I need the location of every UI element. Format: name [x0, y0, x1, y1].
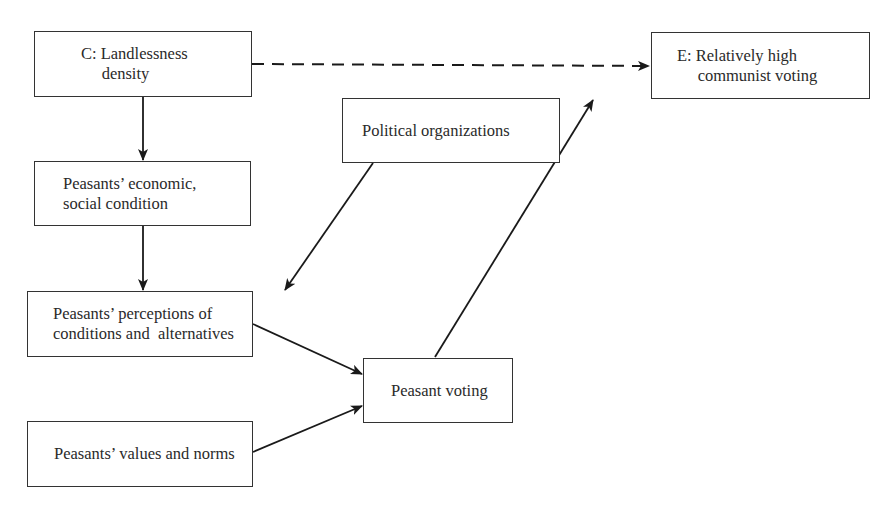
node-peasant-voting: Peasant voting: [363, 358, 513, 423]
node-label: Peasants’ economic, social condition: [63, 174, 196, 214]
node-economic-social-condition: Peasants’ economic, social condition: [34, 161, 251, 226]
node-label: Peasants’ values and norms: [54, 444, 235, 464]
node-communist-voting: E: Relatively high communist voting: [651, 32, 870, 99]
edge-perceptions-to-voting: [253, 324, 362, 374]
node-political-organizations: Political organizations: [342, 98, 560, 163]
node-label: Peasants’ perceptions of conditions and …: [53, 304, 234, 344]
node-values-norms: Peasants’ values and norms: [27, 421, 253, 487]
edge-values-to-voting: [253, 406, 362, 452]
edge-political-to-perceptions: [285, 163, 373, 290]
node-label: Political organizations: [362, 121, 510, 141]
node-landlessness-density: C: Landlessness density: [34, 31, 252, 97]
node-label: C: Landlessness density: [81, 44, 188, 84]
node-label: Peasant voting: [391, 381, 488, 401]
edge-c-to-e: [252, 64, 649, 66]
node-perceptions: Peasants’ perceptions of conditions and …: [27, 291, 253, 357]
node-label: E: Relatively high communist voting: [677, 46, 817, 86]
